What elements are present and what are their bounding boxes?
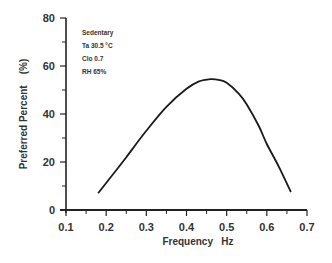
annotation-activity: Sedentary xyxy=(82,29,114,37)
y-tick-label: 0 xyxy=(49,204,55,216)
y-tick-label: 20 xyxy=(43,156,55,168)
annotation-temperature: Ta 30.5 °C xyxy=(82,42,113,49)
y-tick-label: 40 xyxy=(43,108,55,120)
annotation-box: Sedentary Ta 30.5 °C Clo 0.7 RH 65% xyxy=(82,29,114,75)
x-axis-title: Frequency Hz xyxy=(162,236,233,247)
y-tick-label: 80 xyxy=(43,12,55,24)
x-tick-label: 0.2 xyxy=(99,221,114,233)
x-tick-label: 0.4 xyxy=(179,221,195,233)
data-line xyxy=(98,79,291,193)
x-tick-label: 0.3 xyxy=(139,221,154,233)
line-chart: 020406080 0.10.20.30.40.50.60.7 Sedentar… xyxy=(0,0,332,263)
x-tick-label: 0.6 xyxy=(259,221,274,233)
x-tick-label: 0.1 xyxy=(58,221,73,233)
x-axis: 0.10.20.30.40.50.60.7 xyxy=(58,210,314,233)
x-tick-label: 0.5 xyxy=(219,221,234,233)
y-tick-label: 60 xyxy=(43,60,55,72)
plot-area xyxy=(98,79,291,193)
annotation-clo: Clo 0.7 xyxy=(82,55,104,62)
x-tick-label: 0.7 xyxy=(299,221,314,233)
y-axis-title: Preferred Percent (%) xyxy=(18,59,29,170)
y-axis: 020406080 xyxy=(43,12,66,216)
annotation-humidity: RH 65% xyxy=(82,68,106,75)
